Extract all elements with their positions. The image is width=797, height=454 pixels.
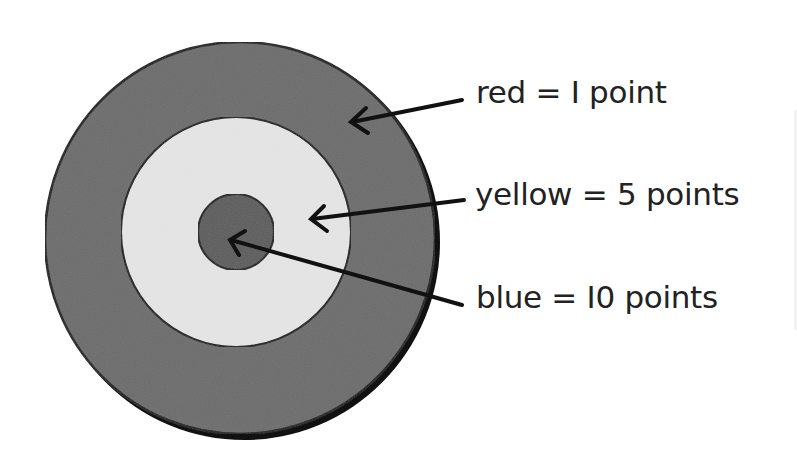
label-blue: blue = I0 points: [476, 279, 718, 315]
label-red: red = I point: [476, 74, 667, 110]
label-yellow: yellow = 5 points: [475, 176, 739, 212]
inner-ring-blue: [198, 194, 274, 270]
target-diagram: [0, 0, 797, 454]
